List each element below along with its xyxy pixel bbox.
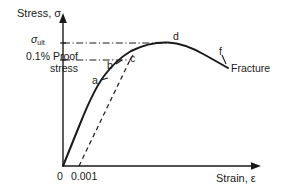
curve-point-label-d: d: [173, 30, 179, 42]
y-axis-label: Stress, σ: [17, 7, 61, 20]
curve-point-label-c: c: [130, 52, 135, 64]
point-f-leader: [222, 55, 226, 64]
curve-point-label-a: a: [92, 74, 98, 86]
sigma-ult-subscript: ult: [37, 39, 44, 46]
diagram-canvas: [0, 0, 293, 194]
fracture-label: Fracture: [231, 62, 270, 74]
curve-point-label-f: f: [219, 45, 222, 57]
proof-stress-label: 0.1% Proof stress: [2, 50, 78, 74]
sigma-ult-label: σult: [31, 33, 45, 45]
curve-point-label-b: b: [107, 59, 113, 71]
x-tick-label-0001: 0.001: [71, 170, 97, 182]
y-axis-label-text: Stress, σ: [17, 7, 61, 19]
proof-stress-label-line2: stress: [2, 62, 78, 74]
x-axis-arrowhead: [251, 162, 261, 170]
x-axis-label-text: Strain, ε: [216, 172, 256, 184]
proof-stress-label-line1: 0.1% Proof: [2, 50, 78, 62]
x-tick-label-zero: 0: [57, 170, 63, 182]
stress-strain-diagram: Stress, σ Strain, ε σult 0.1% Proof stre…: [0, 0, 293, 194]
x-axis-label: Strain, ε: [216, 172, 256, 185]
